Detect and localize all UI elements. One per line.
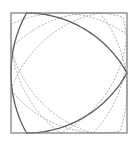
bounding-square [11, 13, 127, 133]
dashed-reuleaux-triangle [11, 13, 127, 133]
dashed-triangles-group [11, 13, 127, 133]
solid-reuleaux-triangle [11, 13, 127, 133]
dashed-reuleaux-triangle [11, 13, 127, 133]
dashed-reuleaux-triangle [11, 13, 127, 133]
reuleaux-diagram [0, 0, 137, 145]
